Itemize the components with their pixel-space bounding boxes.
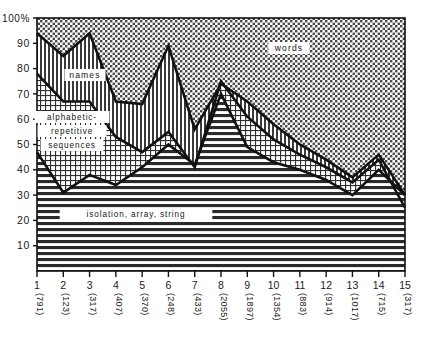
x-tick-count-label: (248): [166, 293, 176, 316]
x-tick-label: 3: [87, 279, 93, 291]
x-tick-count-label: (1897): [245, 293, 255, 321]
y-tick-label: 10: [17, 239, 30, 251]
annotation-isolation: isolation, array, string: [87, 210, 186, 219]
x-tick-count-label: (123): [61, 293, 71, 316]
annotation-alphabetic-line3: sequences: [48, 141, 96, 150]
y-tick-label: 80: [17, 62, 30, 74]
y-tick-label: 100%: [2, 13, 30, 24]
x-tick-label: 2: [60, 279, 66, 291]
area-chart-svg: 102030405060708090100% 1(791)2(123)3(317…: [0, 0, 423, 340]
x-tick-label: 15: [399, 279, 411, 291]
annotation-words: words: [274, 43, 303, 53]
x-tick-count-label: (370): [140, 293, 150, 316]
x-tick-label: 11: [294, 279, 305, 291]
y-axis: 102030405060708090100%: [2, 13, 37, 252]
x-tick-count-label: (1017): [350, 293, 360, 321]
x-tick-count-label: (914): [324, 293, 334, 316]
x-tick-label: 1: [34, 279, 40, 291]
x-tick-label: 5: [139, 279, 145, 291]
x-tick-label: 7: [192, 279, 198, 291]
y-tick-label: 70: [17, 88, 30, 100]
y-tick-label: 20: [17, 214, 30, 226]
x-tick-label: 4: [113, 279, 119, 291]
x-tick-count-label: (433): [193, 293, 203, 316]
x-tick-count-label: (317): [88, 293, 98, 316]
x-tick-label: 8: [218, 279, 224, 291]
x-tick-label: 9: [244, 279, 250, 291]
y-tick-label: 50: [17, 138, 30, 150]
y-tick-label: 30: [17, 189, 30, 201]
x-tick-count-label: (883): [298, 293, 308, 316]
x-tick-label: 14: [373, 279, 385, 291]
annotation-alphabetic-line2: repetitive: [51, 127, 93, 136]
x-tick-count-label: (791): [35, 293, 45, 316]
y-tick-label: 40: [17, 163, 30, 175]
x-tick-count-label: (715): [377, 293, 387, 316]
x-tick-count-label: (317): [403, 293, 413, 316]
x-tick-label: 10: [268, 279, 280, 291]
x-tick-label: 6: [166, 279, 172, 291]
annotation-names: names: [69, 70, 100, 80]
x-tick-label: 13: [347, 279, 359, 291]
x-axis: 1(791)2(123)3(317)4(407)5(370)6(248)7(43…: [34, 271, 413, 321]
x-tick-label: 12: [320, 279, 332, 291]
annotation-alphabetic-line1: alphabetic-: [47, 113, 97, 122]
y-tick-label: 60: [17, 113, 30, 125]
x-tick-count-label: (1354): [272, 293, 282, 321]
y-tick-label: 90: [17, 37, 30, 49]
x-tick-count-label: (2055): [219, 293, 229, 321]
chart-figure: 102030405060708090100% 1(791)2(123)3(317…: [0, 0, 423, 340]
x-tick-count-label: (407): [114, 293, 124, 316]
